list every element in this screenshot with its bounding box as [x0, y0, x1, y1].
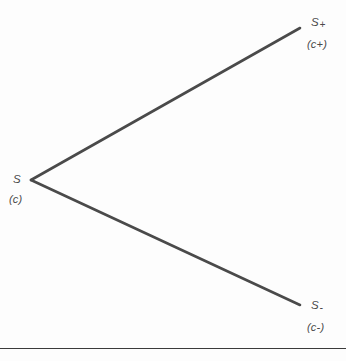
down-branch-line — [31, 180, 300, 305]
node-label-root-symbol: S — [13, 173, 21, 185]
bottom-divider — [0, 348, 346, 349]
down-sign-text: - — [319, 302, 323, 313]
up-branch-line — [31, 28, 300, 180]
up-sign-text: + — [319, 19, 325, 30]
binomial-lattice-figure: S (c) S+ (c+) S- (c-) — [0, 0, 346, 361]
up-symbol-text: S — [311, 16, 319, 28]
node-label-up-payoff: (c+) — [307, 38, 327, 50]
node-label-root-payoff: (c) — [9, 193, 22, 205]
root-symbol-text: S — [13, 173, 21, 185]
node-label-up-symbol: S+ — [311, 16, 325, 28]
down-symbol-text: S — [311, 299, 319, 311]
node-label-down-symbol: S- — [311, 299, 322, 311]
lattice-branches — [0, 0, 346, 361]
node-label-down-payoff: (c-) — [307, 321, 324, 333]
